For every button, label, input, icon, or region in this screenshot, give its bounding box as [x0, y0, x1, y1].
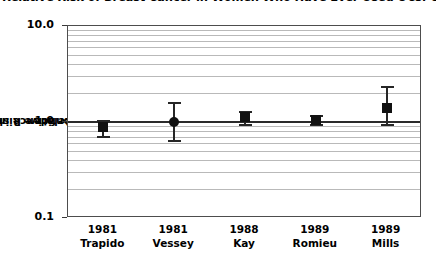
- gridline-minor: [68, 47, 420, 48]
- confidence-interval-cap-lower: [97, 136, 110, 138]
- gridline-minor: [68, 189, 420, 190]
- gridline-minor: [68, 76, 420, 77]
- plot-area: [67, 25, 421, 217]
- x-axis-tick-year: 1989: [341, 222, 431, 236]
- x-axis-tick-author: Mills: [341, 236, 431, 250]
- gridline-minor: [68, 172, 420, 173]
- x-axis-tick-mills: 1989Mills: [341, 222, 431, 250]
- gridline-minor: [68, 131, 420, 132]
- gridline-minor: [68, 41, 420, 42]
- y-axis-tick-label: 0.1: [8, 210, 54, 223]
- gridline-minor: [68, 55, 420, 56]
- gridline-minor: [68, 137, 420, 138]
- point-estimate-marker: [240, 112, 250, 122]
- point-estimate-marker: [98, 122, 108, 132]
- gridline-minor: [68, 30, 420, 31]
- confidence-interval-cap-lower: [168, 140, 181, 142]
- point-estimate-marker: [382, 103, 392, 113]
- chart-title: Relative Risk of Breast Cancer in Women …: [0, 0, 436, 3]
- point-estimate-marker: [311, 115, 321, 125]
- y-axis-tick-mark: [62, 217, 67, 218]
- y-axis-tick-label: 1.0: [8, 114, 54, 127]
- gridline-minor: [68, 35, 420, 36]
- gridline-minor: [68, 151, 420, 152]
- confidence-interval-cap-upper: [168, 102, 181, 104]
- confidence-interval-cap-lower: [381, 124, 394, 126]
- gridline-minor: [68, 64, 420, 65]
- forest-plot-figure: Relative Risk of Breast Cancer in Women …: [0, 0, 436, 265]
- y-axis-tick-label: 10.0: [8, 18, 54, 31]
- gridline-minor: [68, 93, 420, 94]
- confidence-interval-cap-lower: [239, 124, 252, 126]
- gridline-minor: [68, 143, 420, 144]
- gridline-minor: [68, 126, 420, 127]
- x-axis-labels: 1981Trapido1981Vessey1988Kay1989Romieu19…: [67, 222, 421, 262]
- confidence-interval-cap-upper: [381, 86, 394, 88]
- gridline-minor: [68, 160, 420, 161]
